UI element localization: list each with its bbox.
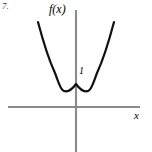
function-graph-figure: 7. f(x) 1 x (0, 0, 152, 152)
local-max-value-label: 1 (79, 66, 84, 76)
x-axis-label: x (134, 110, 139, 121)
y-axis-label: f(x) (49, 3, 66, 15)
problem-number: 7. (2, 2, 9, 11)
graph-canvas (0, 0, 152, 152)
